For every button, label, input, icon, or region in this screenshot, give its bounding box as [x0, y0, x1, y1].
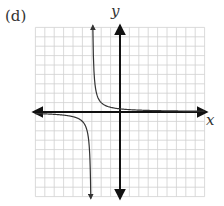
axes: [33, 25, 206, 198]
graph-plot: [0, 0, 224, 206]
